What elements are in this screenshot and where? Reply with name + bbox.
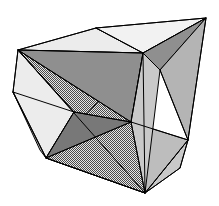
polyhedron-canvas xyxy=(0,0,219,206)
polyhedron-figure xyxy=(0,0,219,206)
